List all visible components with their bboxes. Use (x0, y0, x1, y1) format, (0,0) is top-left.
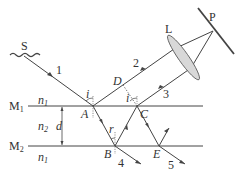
ray-ab-arrow (99, 119, 103, 124)
ray-2-label: 2 (133, 56, 139, 70)
thickness-arrow-head-up (61, 107, 64, 111)
point-c-label: C (140, 107, 149, 121)
m2-label: M2 (9, 139, 24, 154)
thickness-arrow-head-down (61, 141, 64, 145)
thin-film-diagram: S L P 1 2 3 4 5 D A C B E i i r M1 M2 n1… (0, 0, 243, 179)
n1-top-label: n1 (38, 93, 48, 108)
point-d-label: D (112, 74, 122, 88)
angle-i-a-label: i (86, 87, 89, 101)
source-label: S (21, 39, 28, 53)
n1-bottom-label: n1 (38, 150, 48, 165)
point-a-label: A (80, 107, 89, 121)
angle-r-label: r (109, 122, 114, 136)
point-b-label: B (104, 147, 112, 161)
angle-i-c-label: i (126, 91, 129, 105)
screen-point-label: P (209, 10, 216, 24)
m1-label: M1 (9, 99, 24, 114)
thickness-label: d (56, 119, 63, 133)
ray-3-label: 3 (163, 87, 169, 101)
source-wave-icon (10, 54, 40, 57)
ray-1-label: 1 (56, 63, 62, 77)
ray-5-label: 5 (168, 158, 174, 172)
point-e-label: E (152, 147, 161, 161)
lens-label: L (165, 22, 172, 36)
ray-ce-arrow (145, 123, 149, 128)
reflected-ray-bc (115, 106, 137, 146)
ray-e-up-arrow (164, 128, 169, 133)
ray-4-label: 4 (118, 156, 124, 170)
n2-label: n2 (38, 119, 48, 134)
